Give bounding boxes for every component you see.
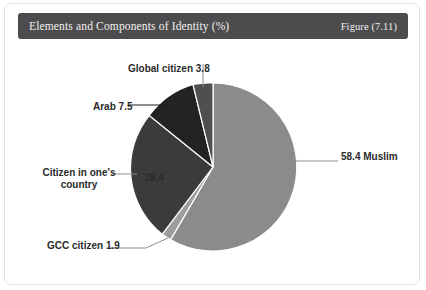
pie-label-citizen-in-country-line2: country <box>18 179 140 191</box>
figure-container: Elements and Components of Identity (%) … <box>0 0 426 290</box>
pie-label-global-citizen-value: 3.8 <box>196 63 210 74</box>
pie-chart-svg <box>0 39 426 290</box>
pie-label-gcc-citizen: GCC citizen 1.9 <box>47 240 120 252</box>
figure-number: Figure (7.11) <box>341 21 397 32</box>
figure-title: Elements and Components of Identity (%) <box>29 20 229 32</box>
pie-label-global-citizen: Global citizen 3.8 <box>128 63 210 75</box>
pie-label-global-citizen-text: Global citizen <box>128 63 193 74</box>
pie-label-muslim-value: 58.4 <box>341 151 360 162</box>
pie-label-gcc-citizen-value: 1.9 <box>106 240 120 251</box>
pie-label-gcc-citizen-text: GCC citizen <box>47 240 103 251</box>
figure-header-bar: Elements and Components of Identity (%) … <box>18 13 408 39</box>
pie-label-citizen-in-country: Citizen in one's country 28.4 <box>18 167 140 190</box>
pie-label-arab-text: Arab <box>93 101 116 112</box>
pie-label-citizen-in-country-value: 28.4 <box>145 172 164 184</box>
pie-label-arab-value: 7.5 <box>119 101 133 112</box>
pie-label-muslim: 58.4 Muslim <box>341 151 398 163</box>
pie-label-muslim-text: Muslim <box>363 151 397 162</box>
pie-label-arab: Arab 7.5 <box>93 101 132 113</box>
pie-chart-area: Global citizen 3.8 Arab 7.5 Citizen in o… <box>0 39 426 290</box>
pie-label-citizen-in-country-line1: Citizen in one's <box>18 167 140 179</box>
